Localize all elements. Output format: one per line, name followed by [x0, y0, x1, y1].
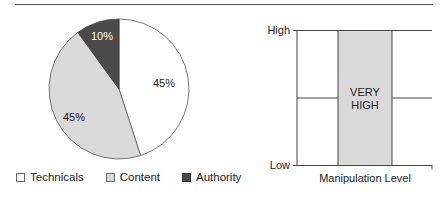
legend-item-technicals: Technicals	[16, 171, 84, 183]
y-tick-low: Low	[270, 159, 290, 171]
bar-manipulation-level	[338, 31, 392, 166]
x-axis-label: Manipulation Level	[319, 172, 411, 184]
pie-label-technicals: 45%	[153, 77, 175, 89]
legend-item-content: Content	[106, 171, 160, 183]
legend-label-authority: Authority	[196, 171, 241, 183]
legend-swatch-content	[106, 173, 115, 182]
legend-swatch-technicals	[16, 173, 25, 182]
pie-label-authority: 10%	[91, 30, 113, 42]
pie-legend: Technicals Content Authority	[16, 171, 263, 183]
legend-label-technicals: Technicals	[30, 171, 84, 183]
legend-swatch-authority	[182, 173, 191, 182]
bar-chart: VERY HIGH High Low Manipulation Level	[267, 24, 432, 184]
bar-label-line2: HIGH	[351, 99, 379, 111]
pie-chart: 45% 45% 10%	[49, 19, 189, 159]
bar-label-line1: VERY	[350, 86, 380, 98]
pie-label-content: 45%	[63, 111, 85, 123]
legend-item-authority: Authority	[182, 171, 241, 183]
y-tick-high: High	[267, 24, 290, 36]
legend-label-content: Content	[120, 171, 160, 183]
